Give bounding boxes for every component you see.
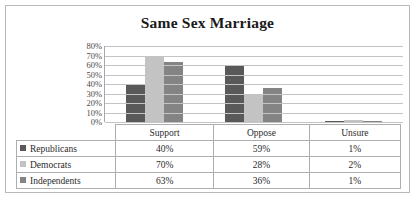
table-header-row: SupportOpposeUnsure	[17, 125, 401, 141]
table-row: Democrats70%28%2%	[17, 157, 401, 173]
value-cell: 63%	[116, 173, 214, 189]
legend-entry: Democrats	[17, 157, 116, 173]
legend-label: Independents	[30, 176, 81, 186]
value-cell: 2%	[309, 157, 400, 173]
y-axis-tick-label: 80%	[66, 42, 102, 50]
value-cell: 28%	[214, 157, 309, 173]
plot-wrapper: 80%70%60%50%40%30%20%10%0%	[6, 42, 409, 126]
plot-area	[104, 46, 403, 122]
y-axis-tick-label: 60%	[66, 61, 102, 69]
y-axis-tick-label: 70%	[66, 52, 102, 60]
chart-frame: Same Sex Marriage 80%70%60%50%40%30%20%1…	[5, 5, 410, 193]
y-axis-tick-label: 40%	[66, 80, 102, 88]
gridline	[105, 56, 403, 57]
y-axis-tick-label: 30%	[66, 90, 102, 98]
value-cell: 36%	[214, 173, 309, 189]
table-corner-cell	[17, 125, 116, 141]
bar	[244, 95, 263, 122]
gridline	[105, 46, 403, 47]
chart-title: Same Sex Marriage	[6, 14, 409, 32]
table-body: Republicans40%59%1%Democrats70%28%2%Inde…	[17, 141, 401, 189]
y-axis-tick-label: 20%	[66, 99, 102, 107]
gridline	[105, 94, 403, 95]
gridline	[105, 103, 403, 104]
table-row: Independents63%36%1%	[17, 173, 401, 189]
table-row: Republicans40%59%1%	[17, 141, 401, 157]
y-axis: 80%70%60%50%40%30%20%10%0%	[66, 42, 102, 122]
legend-swatch-icon	[20, 161, 26, 167]
legend-entry: Independents	[17, 173, 116, 189]
legend-entry: Republicans	[17, 141, 116, 157]
category-header-cell: Oppose	[214, 125, 309, 141]
value-cell: 40%	[116, 141, 214, 157]
legend-swatch-icon	[20, 177, 26, 183]
value-cell: 1%	[309, 173, 400, 189]
category-header-cell: Unsure	[309, 125, 400, 141]
data-table: SupportOpposeUnsure Republicans40%59%1%D…	[16, 124, 401, 189]
legend-label: Republicans	[30, 144, 77, 154]
category-header-cell: Support	[116, 125, 214, 141]
gridline	[105, 113, 403, 114]
legend-swatch-icon	[20, 145, 26, 151]
gridline	[105, 84, 403, 85]
y-axis-tick-label: 50%	[66, 71, 102, 79]
gridline	[105, 75, 403, 76]
y-axis-tick-label: 10%	[66, 109, 102, 117]
value-cell: 70%	[116, 157, 214, 173]
gridline	[105, 65, 403, 66]
legend-label: Democrats	[30, 160, 71, 170]
value-cell: 59%	[214, 141, 309, 157]
value-cell: 1%	[309, 141, 400, 157]
gridline	[105, 122, 403, 123]
